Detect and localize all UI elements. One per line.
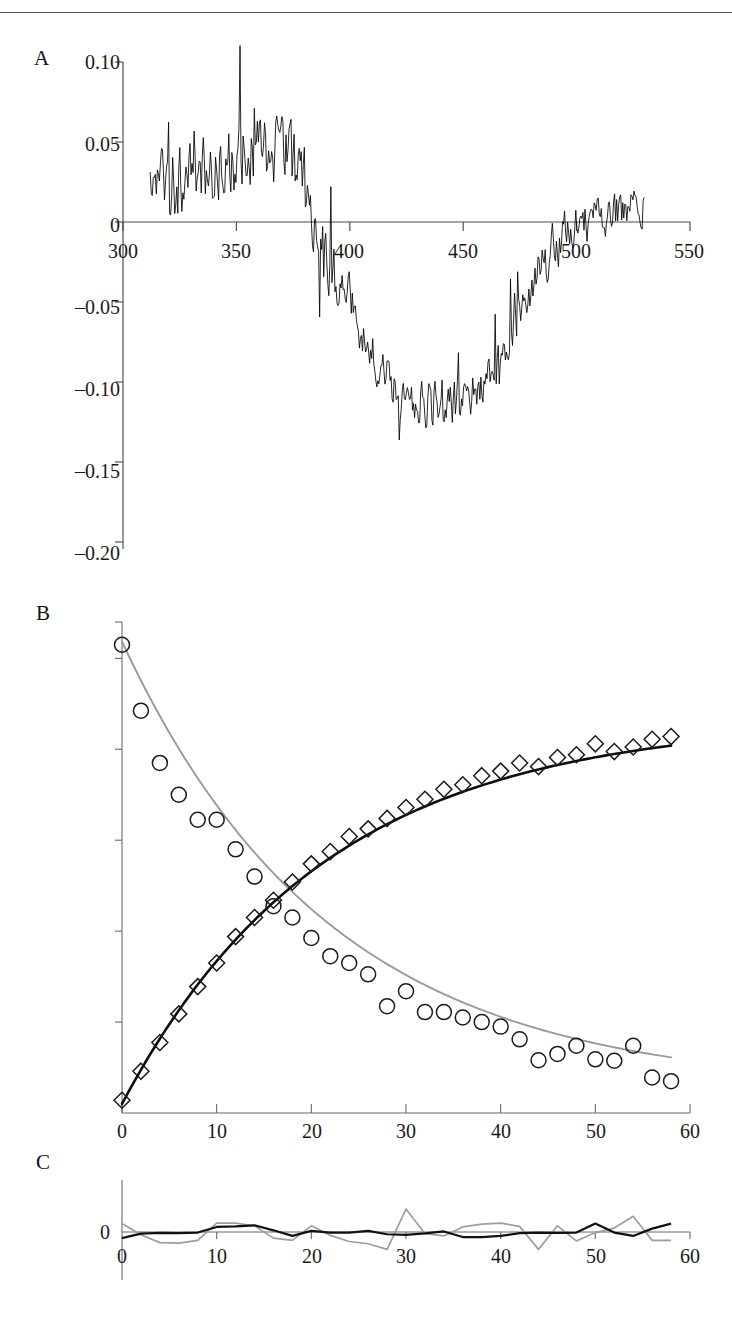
data-point-diamond [531, 759, 547, 775]
panel-b-xtick-1: 10 [189, 1121, 245, 1141]
panel-b-xtick-4: 40 [473, 1121, 529, 1141]
figure-root: A 0.10 0.05 0 –0.05 –0.10 –0.15 –0.20 30… [0, 0, 732, 1335]
data-point-circle [323, 949, 338, 964]
panel-c-xtick-4: 40 [473, 1246, 529, 1266]
panel-a-xtick-5: 550 [661, 241, 717, 261]
data-point-circle [550, 1046, 565, 1061]
data-point-diamond [247, 910, 263, 926]
data-point-circle [436, 1005, 451, 1020]
panel-a-ytick-0: 0.10 [48, 52, 120, 72]
data-point-diamond [644, 731, 660, 747]
panel-c-xtick-6: 60 [662, 1246, 718, 1266]
data-point-circle [171, 787, 186, 802]
data-point-circle [399, 984, 414, 999]
data-point-diamond [587, 736, 603, 752]
panel-a-ytick-6: –0.20 [40, 543, 120, 563]
data-point-circle [512, 1032, 527, 1047]
data-point-circle [455, 1010, 470, 1025]
data-point-circle [247, 869, 262, 884]
data-point-diamond [228, 929, 244, 945]
panel-b-decay-fit [122, 642, 671, 1058]
data-point-diamond [436, 781, 452, 797]
panel-c-label: C [36, 1150, 50, 1175]
data-point-circle [417, 1005, 432, 1020]
data-point-circle [531, 1053, 546, 1068]
data-point-circle [285, 910, 300, 925]
panel-c-xtick-5: 50 [568, 1246, 624, 1266]
data-point-diamond [512, 755, 528, 771]
data-point-circle [304, 930, 319, 945]
data-point-diamond [474, 768, 490, 784]
data-point-circle [342, 955, 357, 970]
panel-b-plot [0, 595, 732, 1150]
data-point-circle [493, 1019, 508, 1034]
panel-c-residuals-gray [122, 1209, 671, 1249]
panel-b-xtick-6: 60 [662, 1121, 718, 1141]
panel-c-xtick-1: 10 [189, 1246, 245, 1266]
data-point-circle [664, 1074, 679, 1089]
panel-a-xtick-2: 400 [321, 241, 377, 261]
panel-a-ytick-5: –0.15 [40, 461, 120, 481]
panel-a-xtick-3: 450 [435, 241, 491, 261]
page-top-rule [0, 12, 732, 13]
panel-b-xtick-2: 20 [284, 1121, 340, 1141]
panel-a-axes [115, 62, 690, 549]
panel-a-xtick-1: 350 [208, 241, 264, 261]
panel-b-xtick-3: 30 [378, 1121, 434, 1141]
data-point-circle [588, 1052, 603, 1067]
data-point-circle [474, 1015, 489, 1030]
data-point-diamond [606, 744, 622, 760]
panel-b-axes [115, 622, 690, 1113]
data-point-circle [361, 967, 376, 982]
panel-b-xtick-5: 50 [568, 1121, 624, 1141]
data-point-circle [133, 703, 148, 718]
data-point-circle [152, 755, 167, 770]
panel-a-ytick-2: 0 [48, 215, 120, 235]
data-point-circle [645, 1070, 660, 1085]
data-point-circle [228, 842, 243, 857]
data-point-circle [380, 999, 395, 1014]
panel-a-xtick-4: 500 [548, 241, 604, 261]
panel-c-xtick-2: 20 [284, 1246, 340, 1266]
data-point-circle [190, 812, 205, 827]
panel-a-ytick-4: –0.10 [40, 379, 120, 399]
data-point-circle [209, 812, 224, 827]
panel-b-decay-markers [115, 637, 679, 1088]
panel-b: B 0 10 20 30 40 50 60 [0, 595, 732, 1150]
panel-c-xtick-0: 0 [94, 1246, 150, 1266]
panel-b-xtick-0: 0 [94, 1121, 150, 1141]
data-point-diamond [303, 856, 319, 872]
panel-b-label: B [36, 601, 50, 626]
data-point-circle [607, 1053, 622, 1068]
data-point-diamond [663, 729, 679, 745]
panel-a-ytick-3: –0.05 [40, 297, 120, 317]
panel-c-xtick-3: 30 [378, 1246, 434, 1266]
panel-a: A 0.10 0.05 0 –0.05 –0.10 –0.15 –0.20 30… [0, 30, 732, 595]
panel-c-ytick-0: 0 [70, 1222, 110, 1242]
panel-b-rise-fit [122, 746, 671, 1104]
panel-c: C 0 0 10 20 30 40 50 60 [0, 1148, 732, 1335]
panel-a-ytick-1: 0.05 [48, 134, 120, 154]
data-point-circle [569, 1038, 584, 1053]
panel-a-xtick-0: 300 [95, 241, 151, 261]
